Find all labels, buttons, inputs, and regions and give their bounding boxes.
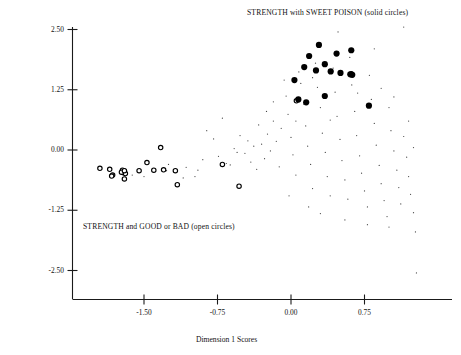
data-point-open (145, 160, 149, 164)
data-point-dot (381, 88, 382, 89)
data-point-solid (322, 61, 328, 67)
x-tick-label: -0.75 (198, 308, 238, 317)
data-point-solid (366, 103, 372, 109)
data-point-dot (406, 157, 407, 158)
series-background-dots (132, 26, 417, 273)
y-tick-label: 2.50 (32, 25, 64, 34)
data-point-dot (143, 176, 144, 177)
data-point-dot (256, 169, 257, 170)
data-point-dot (247, 140, 248, 141)
data-point-dot (168, 164, 169, 165)
data-point-dot (336, 116, 337, 117)
data-point-solid (303, 99, 309, 105)
data-point-open (152, 168, 156, 172)
data-point-dot (298, 71, 299, 72)
data-point-dot (330, 120, 331, 121)
data-point-dot (327, 176, 328, 177)
data-point-dot (226, 163, 227, 164)
data-point-dot (292, 154, 293, 155)
data-point-dot (381, 183, 382, 184)
data-point-dot (367, 206, 368, 207)
data-point-dot (284, 79, 285, 80)
data-point-dot (413, 147, 414, 148)
data-point-dot (239, 135, 240, 136)
series-open-circles (98, 72, 354, 189)
data-point-dot (253, 146, 254, 147)
data-point-open (109, 174, 113, 178)
data-point-dot (250, 161, 251, 162)
data-point-dot (197, 170, 198, 171)
data-point-dot (396, 170, 397, 171)
data-point-dot (300, 83, 301, 84)
data-point-solid (328, 68, 334, 74)
data-point-dot (322, 133, 323, 134)
data-point-dot (236, 152, 237, 153)
data-point-dot (333, 67, 334, 68)
data-point-dot (218, 156, 219, 157)
data-point-open (122, 169, 126, 173)
data-point-dot (325, 152, 326, 153)
data-point-dot (230, 164, 231, 165)
x-axis-label: Dimension 1 Scores (196, 335, 257, 344)
data-point-dot (371, 99, 372, 100)
data-point-dot (408, 120, 409, 121)
data-point-dot (379, 165, 380, 166)
data-point-dot (383, 200, 384, 201)
data-point-dot (344, 219, 345, 220)
data-point-dot (334, 92, 335, 93)
data-point-dot (367, 224, 368, 225)
data-point-dot (403, 136, 404, 137)
plot-canvas (0, 0, 461, 355)
data-point-open (98, 166, 102, 170)
data-point-dot (194, 176, 195, 177)
data-point-dot (266, 111, 267, 112)
data-point-dot (408, 176, 409, 177)
data-point-solid (291, 77, 297, 83)
data-point-open (161, 168, 165, 172)
data-point-dot (202, 159, 203, 160)
data-point-dot (403, 26, 404, 27)
annotation-open-series: STRENGTH and GOOD or BAD (open circles) (83, 222, 235, 231)
data-point-dot (376, 145, 377, 146)
data-point-dot (400, 203, 401, 204)
data-point-dot (341, 160, 342, 161)
data-point-solid (295, 96, 301, 102)
data-point-dot (267, 133, 268, 134)
data-point-dot (351, 84, 352, 85)
data-point-dot (288, 195, 289, 196)
data-point-dot (295, 174, 296, 175)
data-point-dot (416, 272, 417, 273)
x-tick-label: 0.75 (345, 308, 385, 317)
data-point-dot (374, 48, 375, 49)
data-point-open (108, 167, 112, 171)
data-point-dot (347, 199, 348, 200)
data-point-solid (316, 42, 322, 48)
data-point-dot (349, 57, 350, 58)
axes (68, 27, 453, 305)
y-tick-label: 1.25 (32, 85, 64, 94)
data-point-dot (339, 139, 340, 140)
y-tick-label: -1.25 (32, 205, 64, 214)
data-point-dot (398, 187, 399, 188)
data-point-dot (356, 135, 357, 136)
scatter-plot-figure: STRENGTH with SWEET POISON (solid circle… (0, 0, 461, 355)
data-point-dot (410, 194, 411, 195)
x-tick-label: 0.00 (271, 308, 311, 317)
data-point-dot (330, 195, 331, 196)
data-point-dot (393, 96, 394, 97)
data-point-dot (273, 120, 274, 121)
data-point-dot (270, 150, 271, 151)
data-point-open (175, 183, 179, 187)
y-tick-label: -2.50 (32, 266, 64, 275)
data-point-dot (234, 148, 235, 149)
data-point-dot (285, 95, 286, 96)
data-point-dot (273, 101, 274, 102)
data-point-solid (322, 93, 328, 99)
x-tick-label: -1.50 (124, 308, 164, 317)
data-point-dot (354, 111, 355, 112)
data-point-solid (348, 47, 354, 53)
data-point-dot (369, 75, 370, 76)
data-point-dot (359, 155, 360, 156)
data-point-dot (310, 164, 311, 165)
data-point-dot (132, 174, 133, 175)
